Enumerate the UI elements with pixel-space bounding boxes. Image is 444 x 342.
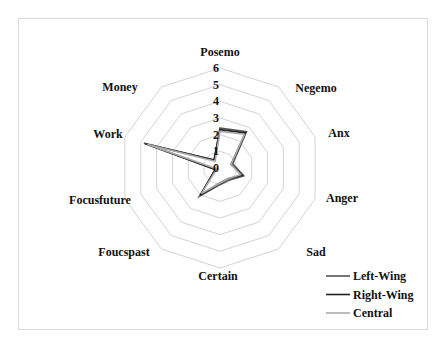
tick-labels: 0123456 [213,61,219,175]
tick-label: 2 [213,128,219,142]
legend-label: Central [353,306,393,320]
grid-ring [157,101,284,234]
series-right-wing [146,130,246,195]
tick-label: 4 [213,94,219,108]
axis-label-posemo: Posemo [200,45,239,59]
tick-label: 0 [213,161,219,175]
axis-label-anger: Anger [326,191,359,205]
axis-label-negemo: Negemo [295,81,336,95]
legend-item: Left-Wing [326,269,406,283]
tick-label: 6 [213,61,219,75]
axis-label-work: Work [93,127,123,141]
legend-label: Right-Wing [353,288,413,302]
axis-label-focusfuture: Focusfuture [69,193,131,207]
tick-label: 1 [213,144,219,158]
grid-ring [188,135,251,202]
tick-label: 3 [213,111,219,125]
radar-grid [125,68,315,268]
tick-label: 5 [213,78,219,92]
grid-ring [125,68,315,268]
legend-item: Central [326,306,393,320]
axis-label-money: Money [102,80,137,94]
legend: Left-WingRight-WingCentral [326,269,413,320]
axis-label-foucspast: Foucspast [98,245,149,259]
legend-label: Left-Wing [353,269,406,283]
axis-label-anx: Anx [328,126,349,140]
axis-label-sad: Sad [306,245,326,259]
axis-label-certain: Certain [198,269,238,283]
legend-item: Right-Wing [326,288,413,302]
grid-ring [141,85,300,252]
radar-chart: PosemoNegemoAnxAngerSadCertainFoucspastF… [0,0,444,342]
